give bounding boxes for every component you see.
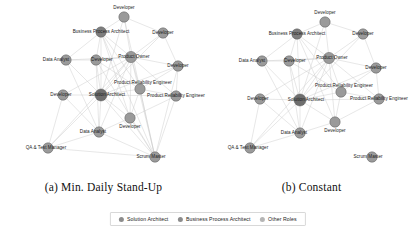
- graph-edge: [140, 89, 155, 157]
- graph-edge: [131, 57, 155, 157]
- graph-edge: [297, 34, 300, 100]
- legend-entry-business-process-architect: Business Process Architect: [177, 216, 250, 222]
- graph-node-label: QA & Test Manager: [26, 146, 67, 151]
- panel-constant: DeveloperBusiness Process ArchitectDevel…: [208, 0, 415, 205]
- legend-label: Business Process Architect: [186, 216, 251, 222]
- graph-edge: [250, 100, 300, 148]
- legend-dot-icon: [177, 217, 182, 222]
- graph-edge: [124, 17, 131, 57]
- legend-dot-icon: [118, 217, 123, 222]
- graph-node-label: Developer: [365, 66, 386, 71]
- caption-panel-a: (a) Min. Daily Stand-Up: [0, 181, 207, 193]
- graph-edge: [96, 60, 155, 157]
- graph-edge: [63, 95, 99, 132]
- graph-node-label: Product Owner: [316, 56, 347, 61]
- graph-node-label: Developer: [113, 6, 134, 11]
- graph-node-label: Developer: [284, 59, 305, 64]
- graph-edge: [48, 95, 101, 148]
- legend-label: Solution Architect: [127, 216, 169, 222]
- legend-entry-solution-architect: Solution Architect: [118, 216, 168, 222]
- graph-edge: [155, 96, 176, 157]
- graph-node-label: Data Analyst: [281, 131, 307, 136]
- graph-node-label: QA & Test Manager: [228, 146, 269, 151]
- graph-node-label: Business Process Architect: [73, 30, 130, 35]
- graph-node-label: Product Owner: [118, 55, 149, 60]
- graph-edge: [48, 57, 131, 148]
- graph-node-label: Scrum Master: [136, 155, 165, 160]
- graph-node-label: Developer: [119, 125, 140, 130]
- panel-min-daily-stand-up: DeveloperBusiness Process ArchitectDevel…: [0, 0, 207, 205]
- graph-edge: [335, 99, 379, 122]
- graph-node-label: Developer: [50, 93, 71, 98]
- graph-edge: [250, 99, 260, 148]
- graph-node[interactable]: [135, 84, 145, 94]
- graph-node-label: Developer: [324, 129, 345, 134]
- graph-edge: [341, 68, 376, 92]
- graph-node-label: Developer: [167, 64, 188, 69]
- graph-node-label: Product Reliability Engineer: [147, 94, 205, 99]
- graph-node-label: Solution Architect: [89, 93, 125, 98]
- graph-node-label: Developer: [314, 11, 335, 16]
- graph-node[interactable]: [330, 117, 340, 127]
- graph-node-label: Scrum Master: [353, 155, 382, 160]
- legend-label: Other Roles: [268, 216, 297, 222]
- graph-edge: [260, 99, 300, 133]
- graph-node[interactable]: [336, 87, 346, 97]
- figure-container: DeveloperBusiness Process ArchitectDevel…: [0, 0, 415, 247]
- graph-node-label: Product Reliability Engineer: [350, 97, 408, 102]
- graph-node-label: Developer: [91, 58, 112, 63]
- graph-edge: [329, 58, 335, 122]
- graph-edge: [300, 34, 363, 100]
- graph-node[interactable]: [125, 113, 135, 123]
- graph-node-label: Developer: [352, 32, 373, 37]
- caption-panel-b: (b) Constant: [208, 181, 415, 193]
- graph-node-label: Business Process Architect: [269, 32, 326, 37]
- graph-node-label: Developer: [247, 97, 268, 102]
- graph-node-label: Data Analyst: [239, 59, 265, 64]
- graph-node-label: Developer: [152, 31, 173, 36]
- legend-dot-icon: [260, 217, 265, 222]
- graph-node[interactable]: [320, 17, 330, 27]
- graph-node-label: Product Reliability Engineer: [114, 81, 172, 86]
- graph-node-label: Solution Architect: [288, 98, 324, 103]
- graph-node-label: Data Analyst: [43, 58, 69, 63]
- graph-edge: [363, 34, 376, 68]
- graph-node-label: Data Analyst: [80, 130, 106, 135]
- graph-edge: [297, 34, 335, 122]
- legend-entry-other-roles: Other Roles: [260, 216, 297, 222]
- graph-node-label: Product Reliability Engineer: [315, 84, 373, 89]
- legend: Solution Architect Business Process Arch…: [109, 212, 305, 226]
- graph-node[interactable]: [119, 12, 129, 22]
